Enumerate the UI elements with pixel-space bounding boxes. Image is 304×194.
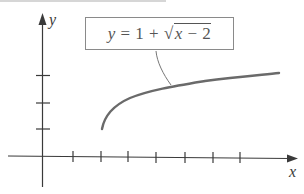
- equation-radicand-x: x: [175, 24, 183, 43]
- equation-mid: = 1 +: [116, 24, 164, 44]
- radical-sign-icon: √: [164, 24, 174, 43]
- label-leader-line: [156, 51, 171, 85]
- x-axis: [8, 151, 298, 163]
- equation-radicand-rest: − 2: [183, 24, 212, 43]
- equation-lhs: y: [108, 24, 116, 44]
- y-axis-label: y: [49, 11, 56, 29]
- equation-label-box: y = 1 + √x − 2: [85, 17, 234, 50]
- x-axis-arrow-icon: [287, 155, 298, 163]
- y-axis: [36, 13, 50, 187]
- equation-radical: √x − 2: [164, 24, 211, 44]
- function-curve: [102, 73, 279, 129]
- x-axis-label: x: [289, 163, 296, 181]
- y-axis-arrow-icon: [39, 13, 47, 25]
